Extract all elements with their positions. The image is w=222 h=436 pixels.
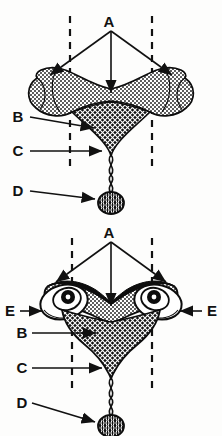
label-a-arrow-left	[56, 242, 111, 282]
label-c-group: C	[13, 142, 102, 159]
label-c-group: C	[17, 359, 102, 376]
crosshatch-wedge	[72, 102, 150, 156]
label-e-left-group: E	[5, 302, 42, 319]
label-e-left: E	[5, 302, 15, 319]
upper-diagram: A B C D	[0, 0, 222, 218]
label-b: B	[13, 108, 24, 125]
label-d-arrow	[32, 403, 95, 422]
label-d-arrow	[30, 191, 95, 199]
label-a: A	[104, 13, 115, 30]
label-a-arrow-left	[50, 31, 111, 75]
label-b: B	[17, 324, 28, 341]
label-a-arrow-right	[111, 31, 172, 75]
label-d-group: D	[17, 394, 95, 422]
oval-body	[98, 192, 124, 214]
label-a-arrow-right	[111, 242, 166, 282]
twisted-cord	[109, 378, 112, 416]
label-c: C	[17, 359, 28, 376]
figure-root: A B C D	[0, 0, 222, 436]
label-e-right: E	[207, 302, 217, 319]
label-c: C	[13, 142, 24, 159]
lower-diagram: A E E B C	[0, 218, 222, 436]
label-e-right-group: E	[180, 302, 217, 319]
label-a: A	[104, 224, 115, 241]
twisted-cord	[109, 155, 112, 193]
label-d: D	[17, 394, 28, 411]
label-d: D	[13, 182, 24, 199]
label-d-group: D	[13, 182, 95, 199]
oval-body	[98, 415, 124, 436]
